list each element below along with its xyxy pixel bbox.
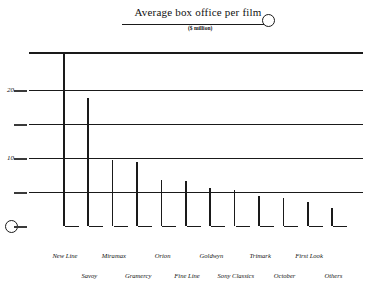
axis-top-line bbox=[29, 52, 363, 54]
bar-october bbox=[283, 198, 285, 226]
ytick-mark-10 bbox=[14, 158, 27, 160]
bar-foot-tick bbox=[89, 226, 103, 227]
bar-new-line bbox=[63, 53, 65, 226]
bar-foot-tick bbox=[138, 226, 152, 227]
bar-sony-classics bbox=[234, 190, 236, 226]
bar-goldwyn bbox=[209, 188, 211, 226]
xlabel-orion: Orion bbox=[155, 252, 171, 260]
xlabel-october: October bbox=[274, 272, 296, 280]
bar-trimark bbox=[258, 196, 260, 226]
ytick-mark-20 bbox=[14, 90, 27, 92]
xlabel-sony-classics: Sony Classics bbox=[218, 272, 254, 280]
bar-fine-line bbox=[185, 181, 187, 226]
gridline-5 bbox=[29, 192, 363, 193]
chart-title: Average box office per film bbox=[118, 6, 278, 19]
gridline-20 bbox=[29, 90, 363, 91]
bar-orion bbox=[161, 180, 163, 226]
xlabel-others: Others bbox=[324, 272, 342, 280]
bar-foot-tick bbox=[284, 226, 298, 227]
bar-foot-tick bbox=[211, 226, 225, 227]
bar-foot-tick bbox=[260, 226, 274, 227]
chart-subtitle: ($ million) bbox=[188, 24, 212, 32]
bar-foot-tick bbox=[333, 226, 347, 227]
ytick-mark-0 bbox=[14, 226, 27, 228]
bar-gramercy bbox=[136, 162, 138, 226]
bar-foot-tick bbox=[187, 226, 201, 227]
xlabel-fine-line: Fine Line bbox=[174, 272, 199, 280]
ytick-mark-15 bbox=[14, 124, 27, 126]
bar-foot-tick bbox=[309, 226, 323, 227]
ytick-mark-5 bbox=[14, 192, 27, 194]
ytick-label-20: 20 bbox=[0, 86, 14, 94]
xlabel-new-line: New Line bbox=[52, 252, 77, 260]
xlabel-trimark: Trimark bbox=[250, 252, 271, 260]
chart-root: Average box office per film ($ million) … bbox=[0, 0, 371, 299]
xlabel-savoy: Savoy bbox=[82, 272, 98, 280]
gridline-15 bbox=[29, 124, 363, 125]
bar-savoy bbox=[87, 98, 89, 226]
bar-foot-tick bbox=[236, 226, 250, 227]
bar-others bbox=[331, 208, 333, 226]
xlabel-miramax: Miramax bbox=[102, 252, 126, 260]
xlabel-first-look: First Look bbox=[295, 252, 323, 260]
gridline-10 bbox=[29, 158, 363, 159]
xlabel-gramercy: Gramercy bbox=[125, 272, 152, 280]
bar-foot-tick bbox=[162, 226, 176, 227]
bar-foot-tick bbox=[114, 226, 128, 227]
chart-title-text: Average box office per film bbox=[118, 6, 278, 19]
xlabel-goldwyn: Goldwyn bbox=[199, 252, 223, 260]
bar-miramax bbox=[112, 160, 114, 226]
ytick-label-10: 10 bbox=[0, 154, 14, 162]
bar-first-look bbox=[307, 202, 309, 226]
title-end-circle-icon bbox=[262, 14, 275, 27]
bar-foot-tick bbox=[65, 226, 79, 227]
